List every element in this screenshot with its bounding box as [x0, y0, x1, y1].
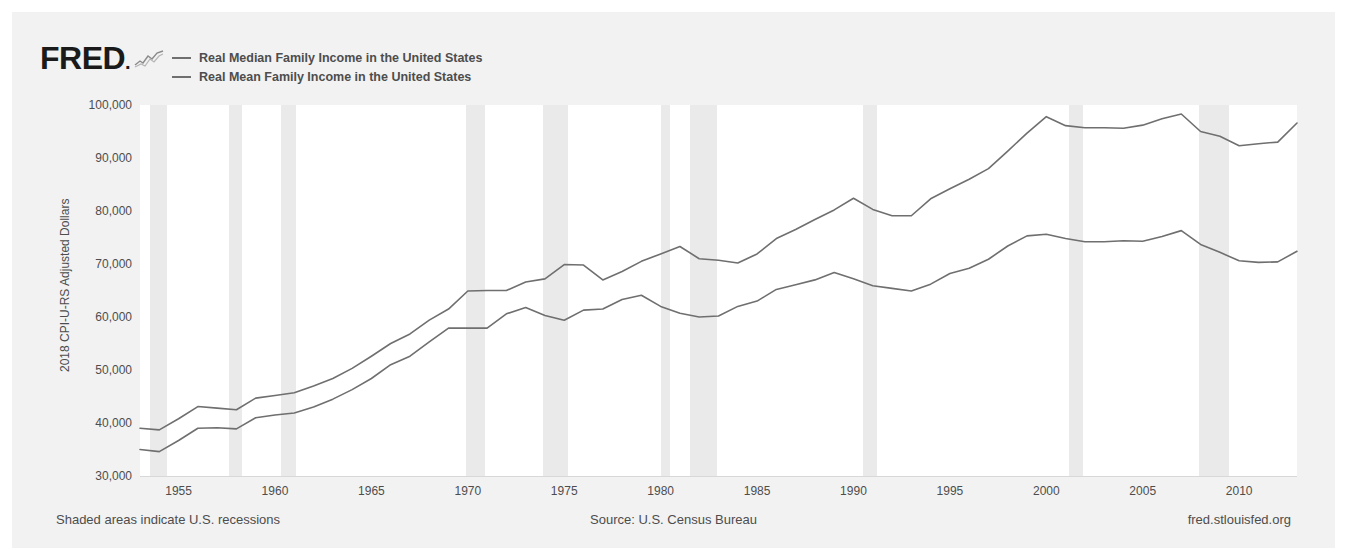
x-tick-label: 2005: [1129, 484, 1156, 498]
chart-legend: Real Median Family Income in the United …: [172, 48, 482, 86]
recession-note: Shaded areas indicate U.S. recessions: [56, 512, 280, 527]
x-tick-label: 1960: [262, 484, 289, 498]
y-tick-label: 70,000: [58, 257, 132, 271]
fred-logo-dot: .: [125, 51, 130, 73]
y-tick-label: 40,000: [58, 416, 132, 430]
chart-card: FRED. Real Median Family Income in the U…: [12, 12, 1335, 548]
series-lines: [140, 105, 1297, 476]
sparkline-icon: [134, 50, 164, 72]
x-tick-label: 1965: [358, 484, 385, 498]
legend-item-mean[interactable]: Real Mean Family Income in the United St…: [172, 67, 482, 86]
legend-label-median: Real Median Family Income in the United …: [199, 51, 482, 65]
x-tick-label: 1985: [744, 484, 771, 498]
y-tick-label: 50,000: [58, 363, 132, 377]
y-tick-label: 60,000: [58, 310, 132, 324]
x-tick-label: 1975: [551, 484, 578, 498]
x-axis-ticks: 1955196019651970197519801985199019952000…: [140, 476, 1297, 502]
fred-url[interactable]: fred.stlouisfed.org: [1188, 512, 1291, 527]
x-tick-label: 2010: [1226, 484, 1253, 498]
x-tick-label: 1970: [454, 484, 481, 498]
x-tick-label: 1955: [165, 484, 192, 498]
x-tick-label: 1990: [840, 484, 867, 498]
fred-logo: FRED.: [40, 40, 130, 77]
y-axis-ticks: 100,00090,00080,00070,00060,00050,00040,…: [52, 105, 132, 476]
y-tick-label: 30,000: [58, 469, 132, 483]
y-tick-label: 90,000: [58, 151, 132, 165]
legend-swatch-mean: [172, 76, 191, 78]
y-tick-label: 80,000: [58, 204, 132, 218]
chart-header: FRED. Real Median Family Income in the U…: [12, 12, 1335, 92]
fred-logo-text: FRED: [40, 40, 125, 76]
plot-area: [140, 105, 1297, 476]
x-tick-label: 2000: [1033, 484, 1060, 498]
chart-footer: Shaded areas indicate U.S. recessions So…: [12, 512, 1335, 546]
x-tick-label: 1980: [647, 484, 674, 498]
series-line: [140, 114, 1297, 430]
y-tick-label: 100,000: [58, 98, 132, 112]
legend-label-mean: Real Mean Family Income in the United St…: [199, 70, 471, 84]
source-note: Source: U.S. Census Bureau: [590, 512, 757, 527]
legend-swatch-median: [172, 57, 191, 59]
series-line: [140, 231, 1297, 452]
x-tick-label: 1995: [937, 484, 964, 498]
fred-chart-screenshot: FRED. Real Median Family Income in the U…: [0, 0, 1347, 560]
legend-item-median[interactable]: Real Median Family Income in the United …: [172, 48, 482, 67]
